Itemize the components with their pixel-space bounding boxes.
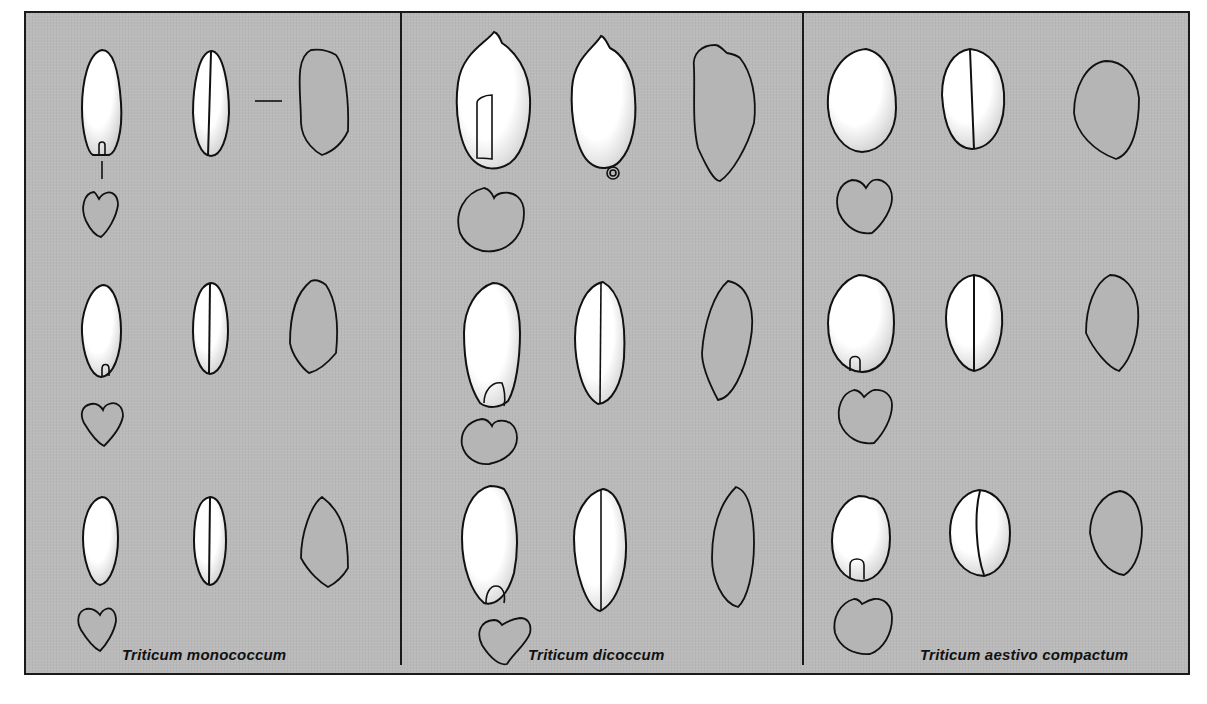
dicoccum-grains-illustration — [402, 13, 802, 673]
label-dicoccum: Triticum dicoccum — [528, 646, 665, 663]
monococcum-grains-illustration — [26, 13, 402, 673]
label-aestivo-compactum: Triticum aestivo compactum — [920, 646, 1128, 663]
panel-dicoccum: Triticum dicoccum — [402, 13, 802, 673]
wheat-grain-figure: Triticum monococcum — [24, 11, 1190, 675]
panel-monococcum: Triticum monococcum — [26, 13, 402, 673]
aestivo-compactum-grains-illustration — [804, 13, 1190, 673]
label-monococcum: Triticum monococcum — [122, 646, 286, 663]
panel-aestivo-compactum: Triticum aestivo compactum — [804, 13, 1190, 673]
